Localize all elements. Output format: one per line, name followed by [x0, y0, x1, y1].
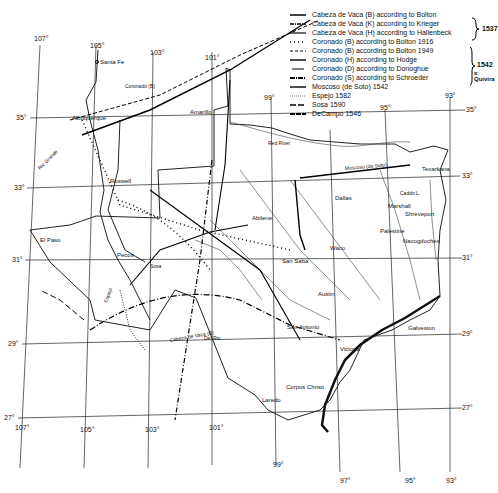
legend-item: DeCampo 1546 [290, 109, 490, 118]
lon-label-bottom-99: 99° [273, 461, 284, 468]
place-laredo: Laredo [262, 397, 281, 403]
place-galveston: Galveston [408, 325, 435, 331]
lon-label-bottom-101: 101° [209, 424, 224, 431]
gulf-coast [322, 296, 440, 432]
place-nacogdoches: Nacogdoches [403, 238, 440, 244]
line-solid-icon [290, 84, 306, 90]
river-label-del-rio: Del Rio [204, 335, 221, 341]
place-caddo-lake: Caddo L. [400, 190, 420, 196]
bracket-label-1542: 1542 [477, 61, 493, 68]
lat-label-left-31: 31° [12, 256, 23, 263]
place-el-paso: El Paso [40, 237, 61, 243]
place-san-antonio: San Antonio [287, 324, 320, 330]
lat-label-left-27: 27° [4, 414, 15, 421]
place-roswell: Roswell [110, 178, 131, 184]
place-dallas: Dallas [335, 195, 352, 201]
line-solid-icon [290, 12, 306, 18]
line-dashdot-icon [290, 21, 306, 27]
legend-item: Cabeza de Vaca (B) according to Bolton [290, 10, 490, 19]
route-cabeza-k [90, 294, 340, 340]
place-albuquerque: Albuquerque [72, 115, 107, 121]
line-dash-dot-heavy-icon [290, 75, 306, 81]
lon-label-top-105: 105° [90, 42, 105, 49]
lon-label-top-107: 107° [34, 35, 49, 42]
lat-label-right-33: 33° [462, 172, 473, 179]
lon-label-bottom-97: 97° [340, 477, 351, 484]
line-thin-icon [290, 66, 306, 72]
place-marshall: Marshall [388, 203, 411, 209]
place-coronado-b-label: Coronado (B) [125, 83, 155, 89]
legend-item: Coronado (D) according to Donoghue [290, 64, 490, 73]
bracket-label-1537: 1537 [482, 25, 498, 32]
place-san-saba: San Saba [282, 258, 309, 264]
place-pecos: Pecos [117, 252, 134, 258]
route-coronado-b-1949 [70, 20, 320, 120]
rivers [195, 122, 436, 320]
line-solid-icon [290, 30, 306, 36]
lat-label-left-35: 35° [16, 114, 27, 121]
legend-item: Sosa 1590 [290, 100, 490, 109]
route-cabeza-h [130, 225, 248, 285]
lon-label-bottom-105: 105° [80, 426, 95, 433]
lon-label-bottom-107: 107° [15, 424, 30, 431]
lon-label-bottom-93: 93° [446, 477, 457, 484]
bracket-label-quivira: x Quivira [474, 70, 495, 82]
lon-label-top-99: 99° [264, 94, 275, 101]
line-fine-dotted-icon [290, 93, 306, 99]
lon-label-top-101: 101° [205, 54, 220, 61]
legend: Cabeza de Vaca (B) according to Bolton C… [290, 10, 490, 118]
route-sosa [40, 290, 84, 320]
river-label-rio-grande: Rio Grande [36, 148, 58, 170]
line-solid-icon [290, 57, 306, 63]
route-hallenbeck [150, 190, 300, 340]
lon-label-top-103: 103° [150, 49, 165, 56]
route-label-sosa: Sosa [150, 263, 162, 269]
legend-item: Cabeza de Vaca (H) according to Hallenbe… [290, 28, 490, 37]
legend-item: Moscoso (de Soto) 1542 [290, 82, 490, 91]
place-waco: Waco [330, 245, 346, 251]
place-victoria: Victoria [340, 346, 361, 352]
place-amarillo: Amarillo [190, 109, 212, 115]
place-texarkana: Texarkana [422, 166, 450, 172]
route-label-espejo: Espejo [102, 287, 113, 304]
lat-label-left-29: 29° [8, 340, 19, 347]
place-palestine: Palestine [380, 228, 405, 234]
lon-label-bottom-95: 95° [405, 477, 416, 484]
river-label-red: Red River [268, 140, 291, 146]
lon-label-bottom-103: 103° [145, 426, 160, 433]
place-santa-fe: Santa Fe [100, 59, 125, 65]
place-austin: Austin [318, 291, 335, 297]
legend-item: Cabeza de Vaca (K) according to Krieger [290, 19, 490, 28]
line-heavy-dash-icon [290, 111, 306, 117]
lat-label-right-29: 29° [462, 330, 473, 337]
legend-item: Espejo 1582 [290, 91, 490, 100]
route-coronado-s [175, 160, 212, 420]
route-coronado-dotted [82, 120, 290, 250]
line-long-dash-icon [290, 102, 306, 108]
place-shreveport: Shreveport [405, 211, 435, 217]
lat-label-right-27: 27° [462, 404, 473, 411]
legend-item: Coronado (S) according to Schroeder [290, 73, 490, 82]
legend-item: Coronado (B) according to Bolton 1916 [290, 37, 490, 46]
place-abilene: Abilene [252, 215, 273, 221]
lat-label-left-33: 33° [14, 184, 25, 191]
legend-item: Coronado (B) according to Bolton 1949 [290, 46, 490, 55]
legend-item: Coronado (H) according to Hodge [290, 55, 490, 64]
lat-label-right-31: 31° [462, 254, 473, 261]
line-dashed-icon [290, 48, 306, 54]
line-dotted-icon [290, 39, 306, 45]
place-corpus-christi: Corpus Christi [286, 384, 324, 390]
